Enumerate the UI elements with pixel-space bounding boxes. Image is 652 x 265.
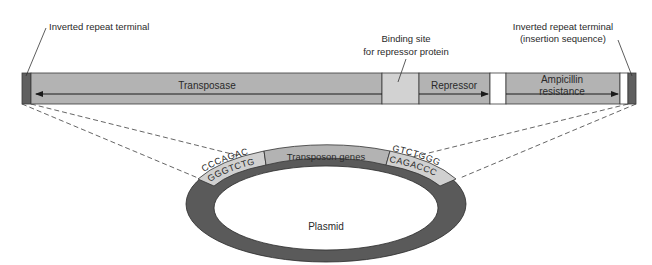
- right-inverted-repeat: [628, 73, 636, 104]
- plasmid-inner: [214, 166, 438, 250]
- right-terminal-label-line1: Inverted repeat terminal: [513, 21, 613, 32]
- connector-left-outer: [22, 104, 198, 178]
- gap-segment-2: [620, 73, 628, 104]
- ampicillin-label-line1: Ampicillin: [541, 74, 583, 85]
- binding-site-label-line1: Binding site: [381, 33, 430, 44]
- binding-site-segment: [382, 73, 419, 104]
- plasmid-label: Plasmid: [308, 221, 344, 232]
- gap-segment: [490, 73, 506, 104]
- connector-right-outer: [460, 104, 636, 178]
- right-terminal-pointer: [618, 40, 632, 76]
- left-terminal-label: Inverted repeat terminal: [49, 21, 149, 32]
- transposase-label: Transposase: [178, 80, 236, 91]
- left-terminal-pointer: [26, 28, 46, 76]
- left-inverted-repeat: [22, 73, 31, 104]
- ampicillin-label-line2: resistance: [539, 86, 585, 97]
- transposon-genes-label: Transposon genes: [287, 151, 366, 162]
- right-terminal-label-line2: (insertion sequence): [520, 33, 606, 44]
- transposon-diagram: Transposase Repressor Ampicillin resista…: [0, 0, 652, 265]
- binding-site-label-line2: for repressor protein: [363, 46, 449, 57]
- connector-right-inner: [392, 104, 628, 162]
- repressor-label: Repressor: [431, 80, 478, 91]
